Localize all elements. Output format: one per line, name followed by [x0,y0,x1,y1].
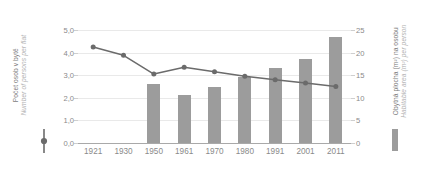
right-tick-label: 15 [356,71,364,80]
right-tick-label: 20 [356,48,364,57]
x-tick-label: 1970 [205,147,223,156]
line-marker [303,81,308,86]
x-tick-label: 1921 [84,147,102,156]
x-tick-label: 1961 [175,147,193,156]
tick-dash [74,143,78,144]
right-tick-label: 10 [356,93,364,102]
line-marker [182,65,187,70]
line-marker [242,74,247,79]
x-tick-label: 1980 [236,147,254,156]
legend-bar-series-icon [392,129,398,151]
left-axis-title: Počet osob v bytě Number of persons per … [12,16,28,134]
line-marker [121,53,126,58]
tick-dash [351,120,355,121]
line-series [78,30,351,143]
right-axis-title-cs: Obytná plocha (m²) na osobu [392,12,400,130]
line-marker [91,44,96,49]
tick-dash [351,98,355,99]
line-marker [333,84,338,89]
x-axis-ticks: 192119301950196119701980199120012011 [78,147,351,161]
line-path [93,47,336,87]
right-axis-title-en: Habitable area (m²) per person [400,12,408,130]
left-tick-label: 0,0 [63,139,74,148]
gridline [78,143,351,144]
right-axis-title: Obytná plocha (m²) na osobu Habitable ar… [392,12,408,130]
x-tick-label: 2011 [327,147,345,156]
right-tick-label: 5 [356,116,360,125]
x-tick-label: 1950 [145,147,163,156]
left-tick-label: 2,0 [63,93,74,102]
right-tick-label: 25 [356,26,364,35]
x-tick-label: 2001 [296,147,314,156]
tick-dash [351,75,355,76]
x-tick-label: 1930 [114,147,132,156]
tick-dash [351,143,355,144]
tick-dash [351,53,355,54]
legend-line-series-icon [38,128,50,154]
left-axis-title-cs: Počet osob v bytě [12,16,20,134]
chart-figure: Počet osob v bytě Number of persons per … [0,0,423,172]
tick-dash [351,30,355,31]
left-tick-label: 1,0 [63,116,74,125]
line-marker [212,69,217,74]
line-marker [273,77,278,82]
line-marker [151,72,156,77]
right-tick-label: 0 [356,139,360,148]
left-tick-label: 5,0 [63,26,74,35]
x-tick-label: 1991 [266,147,284,156]
left-axis-title-en: Number of persons per flat [20,16,28,134]
plot-area: 0,01,02,03,04,05,0 0510152025 [78,30,351,143]
left-tick-label: 3,0 [63,71,74,80]
left-tick-label: 4,0 [63,48,74,57]
